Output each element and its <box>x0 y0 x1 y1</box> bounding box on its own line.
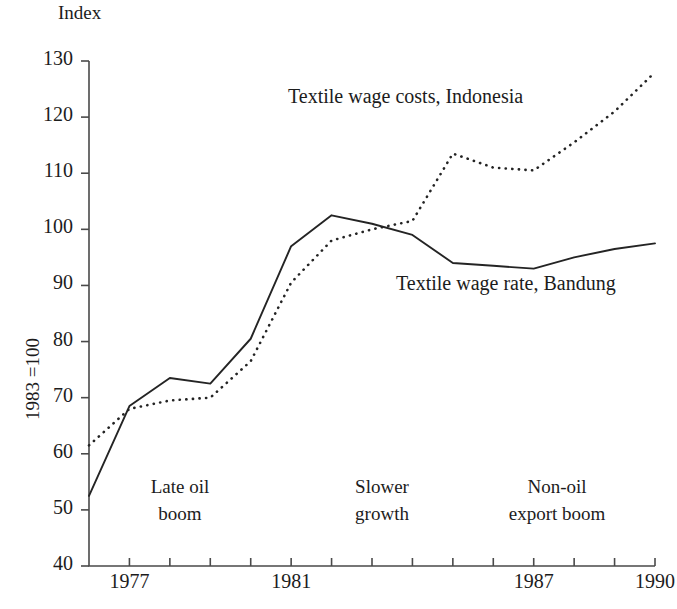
y-tick-label-50: 50 <box>0 496 73 518</box>
y-tick-label-110: 110 <box>0 159 73 181</box>
series-line-bandung <box>89 215 655 496</box>
annotation-nonoil-export-boom-line1: Non-oil <box>477 476 637 497</box>
x-tick-label-1977: 1977 <box>79 570 179 592</box>
y-axis-title: 1983 =100 <box>22 338 44 420</box>
y-tick-label-120: 120 <box>0 103 73 125</box>
y-tick-label-130: 130 <box>0 47 73 69</box>
annotation-nonoil-export-boom-line2: export boom <box>477 503 637 524</box>
y-tick-label-80: 80 <box>0 328 73 350</box>
x-tick-label-1990: 1990 <box>605 570 677 592</box>
annotation-slower-growth-line2: growth <box>322 503 442 524</box>
y-tick-label-40: 40 <box>0 552 73 574</box>
y-axis-unit-title: Index <box>58 2 101 23</box>
chart-container: Index 1983 =100 130120110100908070605040… <box>0 0 677 609</box>
annotation-late-oil-boom-line1: Late oil <box>120 476 240 497</box>
x-tick-label-1987: 1987 <box>484 570 584 592</box>
x-axis-ticks <box>129 558 655 566</box>
annotation-late-oil-boom-line2: boom <box>120 503 240 524</box>
series-label-indonesia: Textile wage costs, Indonesia <box>288 85 523 107</box>
y-tick-label-100: 100 <box>0 215 73 237</box>
y-tick-label-60: 60 <box>0 440 73 462</box>
y-axis-ticks <box>81 61 89 566</box>
annotation-slower-growth-line1: Slower <box>322 476 442 497</box>
y-tick-label-70: 70 <box>0 384 73 406</box>
y-tick-label-90: 90 <box>0 271 73 293</box>
series-label-bandung: Textile wage rate, Bandung <box>396 272 616 294</box>
x-tick-label-1981: 1981 <box>241 570 341 592</box>
